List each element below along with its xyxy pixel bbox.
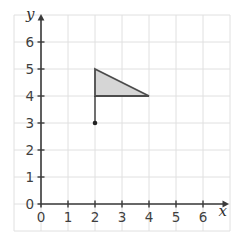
x-tick-label: 1 [64, 209, 73, 225]
y-axis-label: y [25, 5, 35, 23]
marked-point [93, 121, 98, 126]
y-tick-label: 4 [25, 88, 34, 104]
y-tick-label: 0 [25, 196, 34, 212]
graph-figure: 01234560123456xy [0, 0, 243, 247]
y-tick-label: 5 [25, 61, 34, 77]
x-tick-label: 4 [145, 209, 154, 225]
x-tick-label: 6 [199, 209, 208, 225]
x-tick-label: 5 [172, 209, 181, 225]
x-axis-label: x [219, 202, 228, 220]
y-tick-label: 6 [25, 34, 34, 50]
y-tick-label: 2 [25, 142, 34, 158]
x-tick-label: 3 [118, 209, 127, 225]
y-tick-label: 3 [25, 115, 34, 131]
coordinate-plane: 01234560123456xy [0, 0, 243, 247]
x-tick-label: 2 [91, 209, 100, 225]
y-tick-label: 1 [25, 169, 34, 185]
x-tick-label: 0 [37, 209, 46, 225]
